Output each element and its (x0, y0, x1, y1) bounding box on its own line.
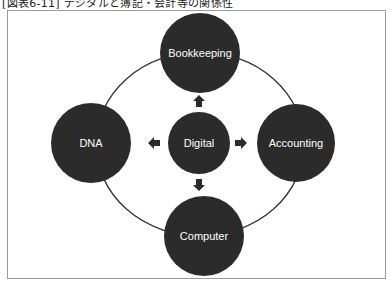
node-computer: Computer (164, 196, 244, 276)
arrow-down-icon (193, 179, 205, 191)
relationship-diagram: Bookkeeping Accounting Computer DNA Digi… (0, 0, 390, 283)
node-bookkeeping: Bookkeeping (160, 13, 240, 93)
node-digital: Digital (168, 112, 230, 174)
node-dna: DNA (51, 103, 131, 183)
node-accounting: Accounting (257, 104, 335, 182)
node-digital-label: Digital (184, 137, 215, 149)
arrow-left-icon (148, 137, 160, 149)
arrow-right-icon (235, 137, 247, 149)
node-bookkeeping-label: Bookkeeping (168, 47, 232, 59)
node-dna-label: DNA (79, 137, 103, 149)
arrow-up-icon (193, 95, 205, 107)
node-computer-label: Computer (180, 230, 229, 242)
node-accounting-label: Accounting (269, 137, 323, 149)
